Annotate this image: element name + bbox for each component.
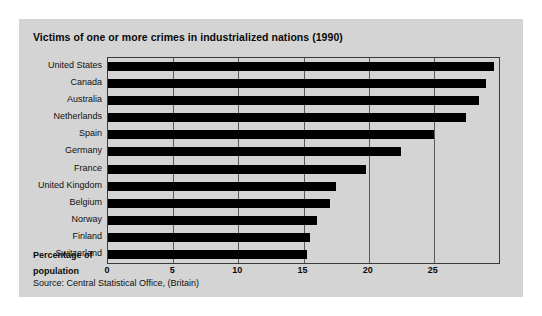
bar-row	[108, 199, 499, 208]
bar	[108, 147, 401, 156]
x-axis-tick-labels: 0510152025	[107, 265, 500, 279]
x-tick-label: 20	[363, 265, 373, 275]
x-axis-title: Percentage of population	[33, 247, 105, 279]
bar	[108, 165, 366, 174]
category-label: Finland	[72, 231, 102, 241]
bar-row	[108, 165, 499, 174]
bar-row	[108, 96, 499, 105]
bar-row	[108, 130, 499, 139]
bar-row	[108, 79, 499, 88]
category-label: France	[74, 163, 102, 173]
category-label: Germany	[65, 145, 102, 155]
plot-area	[107, 57, 500, 264]
bar-row	[108, 250, 499, 259]
bar	[108, 130, 434, 139]
x-axis-title-line1: Percentage of	[33, 247, 105, 263]
category-label: Canada	[70, 77, 102, 87]
category-axis-labels: United StatesCanadaAustraliaNetherlandsS…	[19, 57, 102, 262]
bar-row	[108, 216, 499, 225]
bar	[108, 182, 336, 191]
bar	[108, 216, 317, 225]
x-tick-label: 25	[428, 265, 438, 275]
bar-row	[108, 182, 499, 191]
category-label: United Kingdom	[38, 180, 102, 190]
chart-figure: Victims of one or more crimes in industr…	[19, 19, 523, 297]
bars-layer	[108, 58, 499, 263]
category-label: Spain	[79, 128, 102, 138]
bar	[108, 79, 486, 88]
x-tick-label: 10	[232, 265, 242, 275]
bar	[108, 199, 330, 208]
bar-row	[108, 233, 499, 242]
x-axis-title-line2: population	[33, 263, 105, 279]
category-label: Australia	[67, 94, 102, 104]
category-label: United States	[48, 60, 102, 70]
bar	[108, 250, 307, 259]
bar	[108, 233, 310, 242]
category-label: Netherlands	[53, 111, 102, 121]
bar	[108, 96, 479, 105]
x-tick-label: 15	[297, 265, 307, 275]
category-label: Norway	[71, 214, 102, 224]
bar-row	[108, 62, 499, 71]
x-tick-label: 5	[170, 265, 175, 275]
bar	[108, 62, 494, 71]
bar	[108, 113, 466, 122]
source-note: Source: Central Statistical Office, (Bri…	[33, 278, 199, 288]
category-label: Belgium	[69, 197, 102, 207]
x-tick-label: 0	[104, 265, 109, 275]
bar-row	[108, 147, 499, 156]
bar-row	[108, 113, 499, 122]
chart-title: Victims of one or more crimes in industr…	[33, 31, 343, 43]
